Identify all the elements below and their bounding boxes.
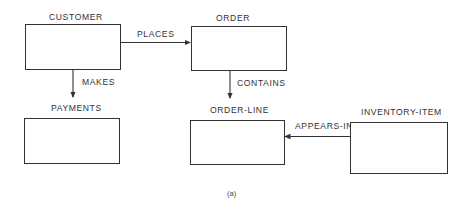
entity-label-order: ORDER — [216, 13, 250, 23]
entity-label-inventory-item: INVENTORY-ITEM — [361, 107, 442, 117]
entity-box-customer — [25, 24, 121, 70]
entity-box-order — [191, 26, 287, 71]
relationship-label-contains: CONTAINS — [237, 78, 286, 88]
relationship-label-appears-in: APPEARS-IN — [295, 121, 353, 131]
entity-box-payments — [24, 118, 120, 164]
figure-caption: (a) — [227, 189, 236, 198]
entity-box-order-line — [190, 120, 285, 165]
relationship-label-places: PLACES — [137, 29, 175, 39]
entity-label-order-line: ORDER-LINE — [210, 105, 269, 115]
entity-label-customer: CUSTOMER — [49, 12, 103, 22]
entity-label-payments: PAYMENTS — [51, 103, 102, 113]
entity-box-inventory-item — [350, 122, 448, 174]
relationship-label-makes: MAKES — [82, 77, 115, 87]
